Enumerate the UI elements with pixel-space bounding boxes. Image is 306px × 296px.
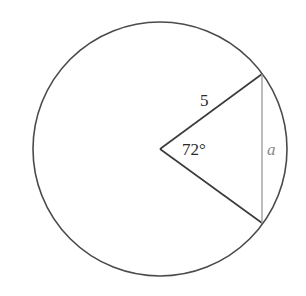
circle-diagram: 5 72° a [0, 0, 306, 296]
radius-bottom [160, 149, 262, 223]
radius-label: 5 [200, 91, 209, 110]
chord-label: a [267, 140, 276, 159]
angle-label: 72° [182, 140, 206, 159]
radius-top [160, 74, 262, 149]
